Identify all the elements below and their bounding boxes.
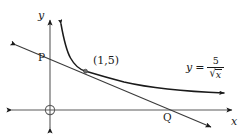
radicand: x — [215, 69, 222, 80]
point-p-label: P — [38, 52, 45, 63]
sqrt-group: √ x — [209, 69, 222, 80]
x-axis-label: x — [231, 116, 237, 127]
equation-fraction: 5 √ x — [207, 56, 224, 79]
equation-numerator: 5 — [211, 56, 221, 67]
tangent-point-label: (1,5) — [93, 55, 119, 66]
tangent-point-marker — [84, 69, 88, 73]
equation-label: y = 5 √ x — [186, 56, 224, 79]
point-q-label: Q — [163, 112, 172, 123]
equation-lhs: y — [186, 62, 192, 73]
radical-sign: √ — [209, 68, 215, 80]
graph-figure: y x P Q (1,5) y = 5 √ x — [0, 0, 247, 140]
y-axis-label: y — [38, 10, 44, 21]
equation-denominator: √ x — [207, 68, 224, 80]
equation-equals: = — [194, 62, 205, 73]
